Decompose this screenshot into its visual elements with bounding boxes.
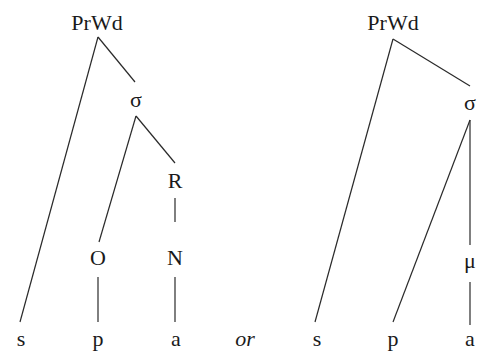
right-mora-node: μ: [464, 248, 476, 273]
right-tree: PrWd σ μ s p a: [313, 10, 476, 351]
left-prwd-node: PrWd: [71, 10, 122, 35]
right-segment-p: p: [388, 326, 399, 351]
left-onset-node: O: [90, 245, 106, 270]
right-edge-prwd-sigma: [393, 39, 470, 86]
or-separator: or: [235, 326, 255, 351]
left-edge-sigma-onset: [99, 116, 136, 242]
right-edge-sigma-p: [393, 120, 470, 322]
left-edge-sigma-rhyme: [136, 116, 175, 163]
diagram-canvas: PrWd σ R O N s p a or PrWd σ μ s p a: [0, 0, 492, 363]
left-edge-prwd-s: [20, 37, 98, 322]
left-edge-prwd-sigma: [98, 37, 135, 82]
right-sigma-node: σ: [464, 90, 476, 115]
left-segment-a: a: [171, 326, 181, 351]
left-tree: PrWd σ R O N s p a: [17, 10, 183, 351]
left-nucleus-node: N: [167, 245, 183, 270]
left-segment-p: p: [93, 326, 104, 351]
left-segment-s: s: [17, 326, 26, 351]
right-edge-prwd-s: [315, 39, 393, 322]
right-segment-s: s: [313, 326, 322, 351]
right-prwd-node: PrWd: [367, 10, 418, 35]
right-segment-a: a: [465, 326, 475, 351]
left-rhyme-node: R: [168, 168, 183, 193]
left-sigma-node: σ: [130, 87, 142, 112]
